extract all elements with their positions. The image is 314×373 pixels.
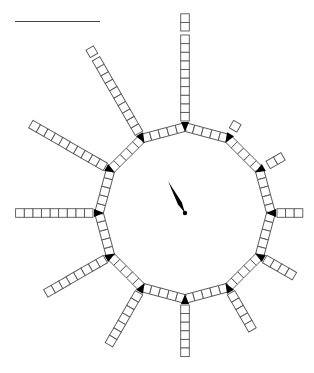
spoke-square-hour-3 — [277, 209, 286, 218]
spoke-ring-graphic — [0, 0, 314, 373]
spoke-square-hour-9 — [50, 209, 59, 218]
spoke-square-hour-6 — [181, 305, 190, 314]
spoke-square-hour-12 — [181, 52, 190, 61]
spoke-square-hour-1 — [229, 120, 241, 132]
spoke-square-hour-12 — [181, 61, 190, 70]
spoke-square-hour-12 — [181, 35, 190, 44]
spoke-square-hour-12 — [181, 69, 190, 78]
spoke-square-hour-11 — [86, 46, 98, 58]
spoke-square-hour-9 — [59, 209, 68, 218]
clock-diagram — [0, 0, 314, 373]
spoke-square-hour-9 — [41, 209, 50, 218]
spoke-square-hour-6 — [181, 314, 190, 323]
spoke-square-hour-9 — [16, 209, 25, 218]
spoke-square-hour-9 — [67, 209, 76, 218]
spoke-square-hour-12 — [181, 78, 190, 87]
spoke-square-hour-12 — [181, 87, 190, 96]
spoke-square-hour-12 — [181, 22, 190, 31]
spoke-square-hour-9 — [33, 209, 42, 218]
spoke-square-hour-12 — [181, 44, 190, 53]
clock-hand-icon — [168, 181, 185, 213]
spoke-square-hour-6 — [181, 339, 190, 348]
spoke-square-hour-3 — [294, 209, 303, 218]
spoke-square-hour-3 — [286, 209, 295, 218]
spoke-square-hour-6 — [181, 331, 190, 340]
spoke-square-hour-12 — [181, 112, 190, 121]
spoke-square-hour-9 — [76, 209, 85, 218]
spoke-square-hour-6 — [181, 322, 190, 331]
spoke-square-hour-12 — [181, 95, 190, 104]
hand-pivot-icon — [183, 211, 187, 215]
spoke-square-hour-6 — [181, 348, 190, 357]
spoke-square-hour-9 — [24, 209, 33, 218]
spoke-square-hour-9 — [84, 209, 93, 218]
spoke-square-hour-12 — [181, 14, 190, 23]
spoke-square-hour-12 — [181, 104, 190, 113]
